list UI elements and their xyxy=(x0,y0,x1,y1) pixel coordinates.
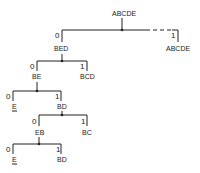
level3-right-bit: 1 xyxy=(55,92,60,101)
level4-left-label: EB xyxy=(35,129,45,136)
level2-left-bit: 0 xyxy=(30,62,35,71)
level5-left-label: E xyxy=(12,156,17,163)
level4-right-bit: 1 xyxy=(81,117,86,126)
root-label: ABCDE xyxy=(112,10,136,17)
level3-left-label: E xyxy=(12,103,17,110)
level1-right-bit: 1 xyxy=(171,31,176,40)
level3-left-bit: 0 xyxy=(6,92,11,101)
level5-right-label: BD xyxy=(57,156,67,163)
tree-diagram: ABCDE 0 BED 1 ABCDE 0 BE 1 BCD 0 E 1 BD … xyxy=(0,0,200,173)
level4-right-label: BC xyxy=(82,129,92,136)
level2-right-label: BCD xyxy=(80,73,95,80)
level1-right-label: ABCDE xyxy=(166,45,190,52)
level1-left-bit: 0 xyxy=(55,31,60,40)
tree-diagram-svg: ABCDE 0 BED 1 ABCDE 0 BE 1 BCD 0 E 1 BD … xyxy=(0,0,200,173)
level2-right-bit: 1 xyxy=(80,62,85,71)
level1-left-label: BED xyxy=(54,45,68,52)
level3-right-label: BD xyxy=(57,103,67,110)
level5-left-bit: 0 xyxy=(6,145,11,154)
level4-left-bit: 0 xyxy=(32,117,37,126)
level2-left-label: BE xyxy=(32,73,42,80)
level5-right-bit: 1 xyxy=(56,145,61,154)
